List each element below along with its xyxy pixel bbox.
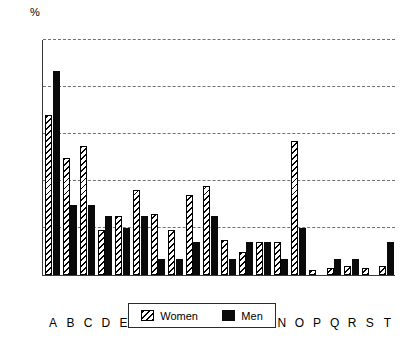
- bar-C-women: [80, 146, 87, 275]
- bar-J-men: [211, 216, 218, 275]
- plot-area: 020406080100 ABCDEFGHIJKLMNOPQRST: [42, 40, 395, 276]
- bar-B-men: [70, 205, 77, 276]
- y-axis-unit-label: %: [30, 6, 40, 18]
- bar-group-N: [274, 40, 290, 275]
- bar-J-women: [203, 186, 210, 275]
- bar-group-I: [186, 40, 202, 275]
- bar-G-men: [158, 259, 165, 275]
- bar-group-L: [239, 40, 255, 275]
- bar-D-men: [105, 216, 112, 275]
- legend-label-women: Women: [160, 310, 198, 322]
- bar-K-men: [229, 259, 236, 275]
- bar-K-women: [221, 240, 228, 275]
- legend-label-men: Men: [241, 310, 262, 322]
- bar-N-women: [274, 242, 281, 275]
- bar-group-P: [309, 40, 325, 275]
- bar-Q-men: [334, 259, 341, 275]
- bar-A-men: [53, 71, 60, 275]
- bar-group-G: [151, 40, 167, 275]
- bar-group-E: [115, 40, 131, 275]
- bar-R-men: [352, 259, 359, 275]
- bar-N-men: [281, 259, 288, 275]
- solid-black-swatch-icon: [222, 310, 235, 321]
- bar-group-B: [63, 40, 79, 275]
- bar-group-F: [133, 40, 149, 275]
- bar-I-women: [186, 195, 193, 275]
- bar-F-women: [133, 190, 140, 275]
- bar-group-Q: [327, 40, 343, 275]
- bar-T-women: [379, 266, 386, 275]
- bar-group-H: [168, 40, 184, 275]
- bar-D-women: [98, 230, 105, 275]
- legend: Women Men: [128, 303, 276, 328]
- bar-group-J: [203, 40, 219, 275]
- hatched-swatch-icon: [141, 310, 154, 321]
- bar-group-S: [362, 40, 378, 275]
- bar-R-women: [344, 266, 351, 275]
- bar-H-women: [168, 230, 175, 275]
- legend-entry-men: Men: [222, 310, 262, 322]
- bar-E-men: [123, 228, 130, 275]
- bar-L-men: [246, 242, 253, 275]
- bar-E-women: [115, 216, 122, 275]
- bar-group-O: [291, 40, 307, 275]
- bar-L-women: [239, 252, 246, 276]
- bar-group-C: [80, 40, 96, 275]
- bar-P-women: [309, 270, 316, 275]
- bar-M-women: [256, 242, 263, 275]
- bar-chart: % 020406080100 ABCDEFGHIJKLMNOPQRST Wome…: [0, 0, 404, 345]
- bar-H-men: [176, 259, 183, 275]
- bar-O-women: [291, 141, 298, 275]
- bar-O-men: [299, 228, 306, 275]
- bar-F-men: [141, 216, 148, 275]
- bar-A-women: [45, 115, 52, 275]
- bar-group-A: [45, 40, 61, 275]
- bar-G-women: [151, 214, 158, 275]
- bar-Q-women: [327, 268, 334, 275]
- bar-T-men: [387, 242, 394, 275]
- bar-S-women: [362, 268, 369, 275]
- bar-group-D: [98, 40, 114, 275]
- bar-C-men: [88, 205, 95, 276]
- bar-M-men: [264, 242, 271, 275]
- bar-group-M: [256, 40, 272, 275]
- bar-B-women: [63, 158, 70, 276]
- legend-entry-women: Women: [141, 310, 198, 322]
- bar-I-men: [193, 242, 200, 275]
- bar-group-R: [344, 40, 360, 275]
- bars-layer: [43, 40, 395, 275]
- bar-group-K: [221, 40, 237, 275]
- x-tick-label-T: T: [377, 317, 397, 330]
- bar-group-T: [379, 40, 395, 275]
